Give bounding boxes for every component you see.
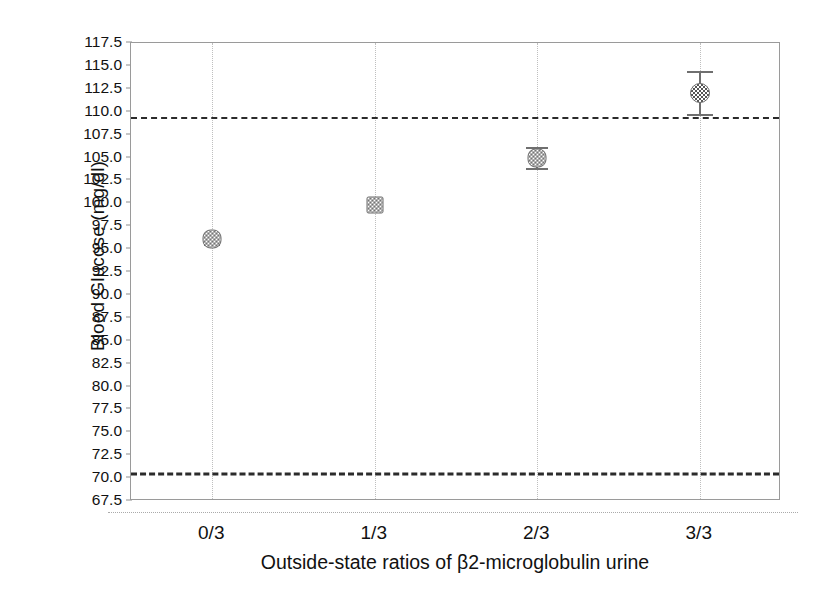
y-axis-tick-label: 105.0 xyxy=(52,149,122,165)
y-axis-tick-label: 72.5 xyxy=(52,446,122,462)
y-axis-tick-label: 90.0 xyxy=(52,286,122,302)
data-point-marker xyxy=(366,197,383,214)
y-axis-tick-label: 112.5 xyxy=(52,80,122,96)
x-axis-tick-label: 0/3 xyxy=(156,522,266,544)
y-axis-tick-label: 82.5 xyxy=(52,355,122,371)
y-axis-tick-label: 85.0 xyxy=(52,332,122,348)
y-axis-tick-label: 75.0 xyxy=(52,424,122,440)
data-point-group xyxy=(192,43,232,501)
data-point-marker xyxy=(203,230,222,249)
error-bar-cap-lower xyxy=(526,168,548,170)
y-axis-tick-label: 107.5 xyxy=(52,126,122,142)
y-axis-tick-label: 117.5 xyxy=(52,34,122,50)
x-axis-title: Outside-state ratios of β2-microglobulin… xyxy=(130,551,780,574)
error-bar-cap-lower xyxy=(687,114,713,116)
data-point-group xyxy=(680,43,720,501)
y-axis-tick-label: 92.5 xyxy=(52,263,122,279)
error-bar-cap-upper xyxy=(687,71,713,73)
x-axis-tick-label: 2/3 xyxy=(481,522,591,544)
data-point-group xyxy=(355,43,395,501)
x-axis-line xyxy=(108,512,798,513)
chart-figure: Blood Glucose (mg/dl) 117.5115.0112.5110… xyxy=(0,0,817,595)
y-axis-tick-label: 80.0 xyxy=(52,378,122,394)
data-point-marker xyxy=(528,148,547,167)
y-axis-tick-label: 67.5 xyxy=(52,492,122,508)
data-point-group xyxy=(517,43,557,501)
y-axis-tick-layer: 117.5115.0112.5110.0107.5105.0102.5100.0… xyxy=(0,0,130,595)
plot-area xyxy=(130,42,780,500)
y-axis-tick-label: 102.5 xyxy=(52,172,122,188)
y-axis-tick-label: 70.0 xyxy=(52,469,122,485)
y-axis-tick-label: 77.5 xyxy=(52,401,122,417)
y-axis-tick-label: 97.5 xyxy=(52,217,122,233)
y-axis-tick-label: 115.0 xyxy=(52,57,122,73)
y-axis-tick-label: 110.0 xyxy=(52,103,122,119)
y-axis-tick-label: 87.5 xyxy=(52,309,122,325)
x-axis-tick-label: 3/3 xyxy=(644,522,754,544)
x-axis-tick-label: 1/3 xyxy=(319,522,429,544)
data-point-marker xyxy=(690,83,710,103)
y-axis-tick-label: 95.0 xyxy=(52,240,122,256)
y-axis-tick-label: 100.0 xyxy=(52,195,122,211)
